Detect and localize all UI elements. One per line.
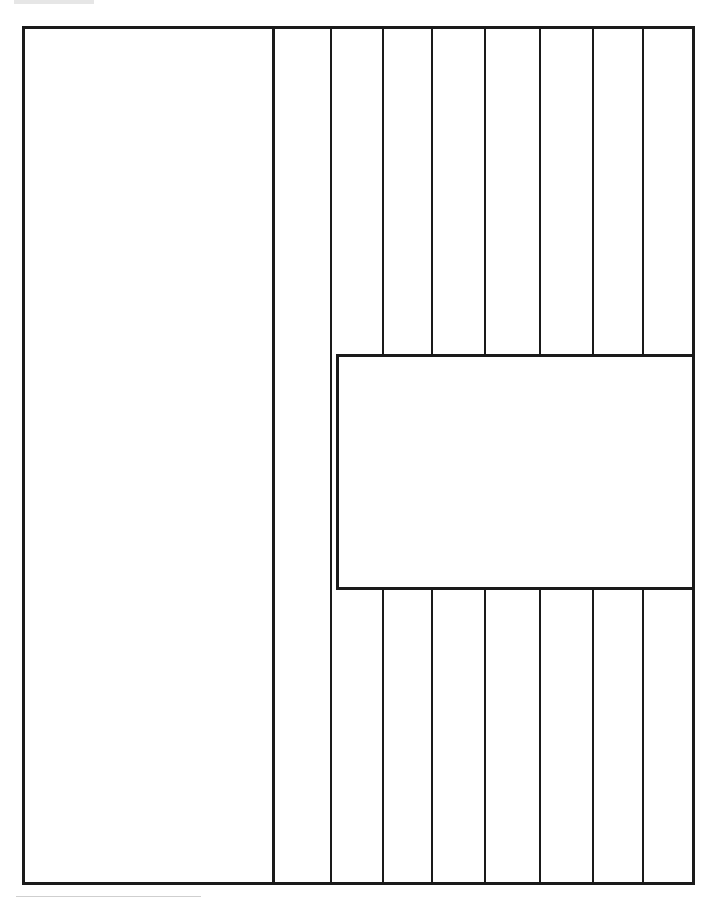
cropped-caption-text — [14, 0, 94, 4]
strip-line-1 — [330, 26, 332, 882]
footer-rule — [16, 896, 201, 897]
main-divider-line — [272, 26, 275, 882]
inset-rectangle — [336, 354, 692, 590]
